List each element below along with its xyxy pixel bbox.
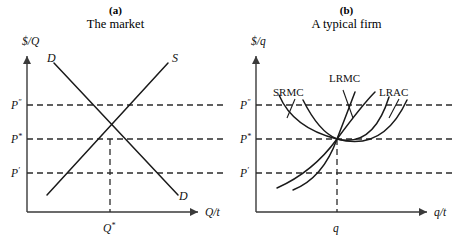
srmc-leader [287,99,295,118]
supply-curve [47,63,168,195]
price-tick-low-market: P′ [10,166,20,179]
x-axis-label-market: Q/t [205,206,221,218]
y-axis-label-firm: $/q [251,35,266,48]
panel-firm: (b) A typical firm $/q q/t [231,0,462,250]
price-tick-equilibrium-firm: P* [239,132,251,145]
srac-curve [279,95,389,140]
x-axis-label-firm: q/t [434,206,447,219]
lrmc-label: LRMC [329,72,360,84]
y-axis-label-market: $/Q [22,35,40,47]
firm-plot: $/q q/t SRMC LRMC LR [231,0,462,250]
price-tick-equilibrium-market: P* [10,132,22,145]
supply-label: S [172,51,178,65]
panel-market: (a) The market $/Q Q/t [0,0,231,250]
lrac-curve [303,100,407,142]
lrmc-leader [343,90,353,118]
lrac-label: LRAC [379,86,408,98]
srmc-label: SRMC [273,86,304,98]
lrac-leader [389,99,399,118]
demand-curve [54,63,178,195]
price-tick-high-firm: P″ [239,98,251,111]
quantity-tick-market: Q* [103,221,115,234]
economics-figure: (a) The market $/Q Q/t [0,0,462,250]
price-tick-high-market: P″ [10,98,22,111]
price-tick-low-firm: P′ [239,166,249,179]
quantity-tick-firm: q [333,222,339,235]
demand-label-top: D [46,51,56,65]
demand-label-bottom: D [178,189,188,203]
market-plot: $/Q Q/t D D S P″ P* [0,0,231,250]
